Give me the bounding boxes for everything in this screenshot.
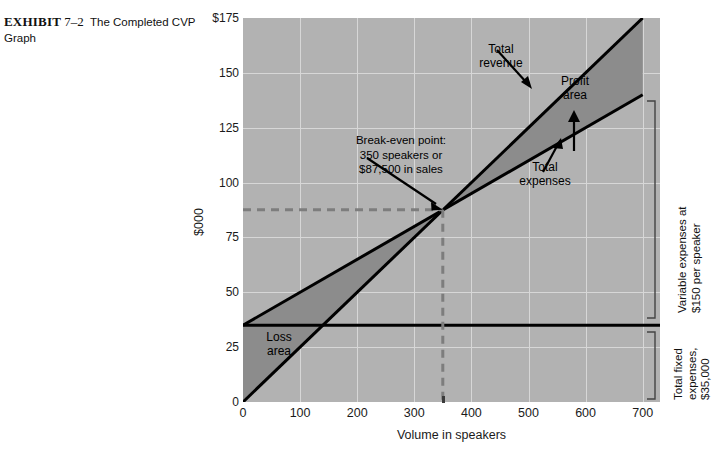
fixed-bracket-line-1: Total fixed	[672, 348, 686, 400]
total-expenses-annotation: Total expenses	[505, 160, 585, 188]
break-even-line-2: 350 speakers or	[331, 148, 471, 163]
x-tick-600: 600	[556, 406, 616, 420]
total-expenses-line-2: expenses	[505, 174, 585, 188]
y-tick-125: 125	[195, 121, 239, 135]
x-tick-500: 500	[499, 406, 559, 420]
break-even-line-1: Break-even point:	[331, 133, 471, 148]
fixed-expenses-bracket-label: Total fixed expenses, $35,000	[672, 348, 713, 400]
y-tick-25: 25	[195, 340, 239, 354]
loss-area-line-2: area	[252, 344, 306, 358]
x-tick-mark-350	[442, 396, 445, 403]
x-tick-700: 700	[613, 406, 673, 420]
loss-area-annotation: Loss area	[252, 330, 306, 358]
profit-area-line-2: area	[544, 88, 606, 102]
x-tick-100: 100	[270, 406, 330, 420]
fixed-expenses-bracket	[647, 332, 655, 399]
plot-area: Break-even point: 350 speakers or $87,50…	[243, 18, 660, 402]
x-tick-400: 400	[441, 406, 501, 420]
variable-expenses-bracket	[647, 101, 655, 318]
variable-bracket-line-1: Variable expenses at	[676, 206, 690, 313]
loss-area-line-1: Loss	[252, 330, 306, 344]
total-expenses-line-1: Total	[505, 160, 585, 174]
total-revenue-annotation: Total revenue	[459, 42, 543, 70]
break-even-annotation: Break-even point: 350 speakers or $87,50…	[331, 133, 471, 177]
x-tick-300: 300	[384, 406, 444, 420]
x-axis-title: Volume in speakers	[243, 428, 660, 442]
fixed-bracket-line-3: $35,000	[699, 348, 713, 400]
y-tick-100: 100	[195, 176, 239, 190]
fixed-bracket-line-2: expenses,	[686, 348, 700, 400]
profit-area-line-1: Profit	[544, 74, 606, 88]
x-tick-200: 200	[327, 406, 387, 420]
variable-bracket-line-2: $150 per speaker	[690, 206, 704, 313]
total-revenue-line-1: Total	[459, 42, 543, 56]
break-even-line-3: $87,500 in sales	[331, 162, 471, 177]
y-tick-50: 50	[195, 285, 239, 299]
profit-area-annotation: Profit area	[544, 74, 606, 102]
y-tick-175: $175	[195, 11, 239, 25]
x-tick-0: 0	[213, 406, 273, 420]
y-axis-title: $000	[192, 208, 206, 236]
y-tick-150: 150	[195, 66, 239, 80]
variable-expenses-bracket-label: Variable expenses at $150 per speaker	[676, 206, 703, 313]
break-even-arrowhead	[431, 202, 443, 211]
total-revenue-line-2: revenue	[459, 56, 543, 70]
